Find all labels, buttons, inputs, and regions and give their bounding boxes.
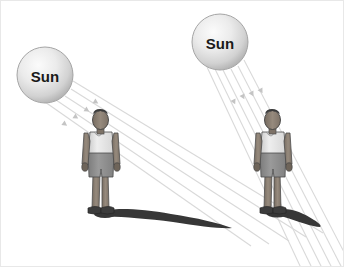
person-head bbox=[265, 111, 281, 130]
person-left-shoe bbox=[260, 207, 273, 215]
scene-svg: Sun Sun bbox=[1, 1, 344, 267]
person-right-hand bbox=[286, 163, 292, 171]
person-left-shoe bbox=[88, 207, 101, 215]
person-right-hand bbox=[114, 163, 120, 171]
person-left-leg bbox=[92, 173, 100, 209]
person-right-shoe bbox=[273, 207, 286, 215]
left-sun: Sun bbox=[17, 47, 73, 103]
diagram-canvas: Sun Sun bbox=[0, 0, 344, 267]
person-right-leg bbox=[274, 173, 281, 209]
right-sun: Sun bbox=[192, 14, 248, 70]
person-left-hand bbox=[82, 163, 88, 171]
person-left-hand bbox=[254, 163, 260, 171]
person-right-leg bbox=[102, 173, 109, 209]
person-left-leg bbox=[264, 173, 272, 209]
sun-label: Sun bbox=[31, 68, 59, 85]
sun-label: Sun bbox=[206, 35, 234, 52]
person-right-shoe bbox=[101, 207, 114, 215]
person-head bbox=[93, 111, 109, 130]
